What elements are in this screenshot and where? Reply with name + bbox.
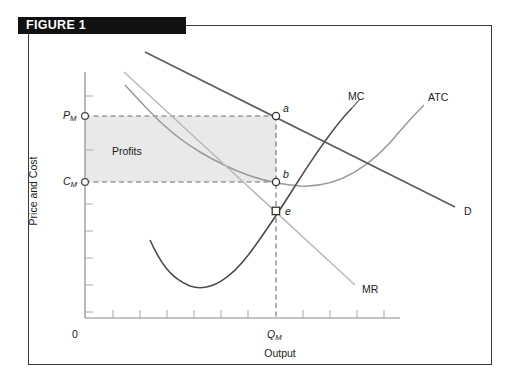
profits-label: Profits [112, 145, 142, 157]
demand-curve-label: D [464, 205, 472, 217]
point-e-label: e [285, 205, 291, 217]
cm-axis-label: CM [63, 175, 77, 189]
cm-axis-marker [82, 179, 89, 186]
x-axis-ticks [113, 310, 384, 318]
atc-curve-label: ATC [428, 91, 448, 103]
pm-symbol: P [63, 109, 70, 121]
figure-container: FIGURE 1 [0, 0, 514, 384]
qm-subscript: M [275, 333, 282, 342]
mr-curve-label: MR [362, 283, 378, 295]
pm-axis-marker [82, 113, 89, 120]
point-a-marker [272, 112, 279, 119]
pm-subscript: M [70, 114, 77, 123]
mc-curve-label: MC [348, 90, 364, 102]
point-e-marker [272, 207, 279, 214]
origin-label: 0 [72, 328, 78, 340]
qm-symbol: Q [267, 328, 275, 340]
figure-banner: FIGURE 1 [18, 17, 186, 34]
cm-subscript: M [71, 180, 78, 189]
plot-canvas [0, 0, 514, 384]
point-b-marker [272, 178, 279, 185]
pm-axis-label: PM [63, 109, 77, 123]
qm-axis-label: QM [267, 328, 282, 342]
y-axis-label: Price and Cost [27, 136, 39, 246]
point-b-label: b [283, 168, 289, 180]
x-axis-label: Output [160, 347, 400, 359]
cm-symbol: C [63, 175, 71, 187]
point-a-label: a [283, 102, 289, 114]
